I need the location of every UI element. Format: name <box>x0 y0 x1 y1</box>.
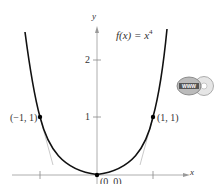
function-exponent: 4 <box>149 28 153 36</box>
y-tick-label-1: 1 <box>85 112 90 122</box>
point-neg1-1 <box>38 115 42 119</box>
function-body: (x) = x <box>119 29 149 41</box>
curve-x-to-4th <box>25 29 167 175</box>
x-axis-label: x <box>190 168 194 177</box>
point-label-neg1-1: (−1, 1) <box>10 113 37 123</box>
point-label-1-1: (1, 1) <box>157 113 179 123</box>
www-icon: WWW <box>176 75 216 97</box>
www-icon-text: WWW <box>182 83 196 89</box>
y-axis-arrow-icon <box>95 26 99 33</box>
point-1-1 <box>151 115 155 119</box>
y-axis-label: y <box>92 12 96 21</box>
function-label: f(x) = x4 <box>116 29 153 41</box>
point-label-origin: (0, 0) <box>100 177 122 184</box>
x-axis-arrow-icon <box>183 173 190 177</box>
y-tick-label-2: 2 <box>85 55 90 65</box>
point-origin <box>95 173 99 177</box>
